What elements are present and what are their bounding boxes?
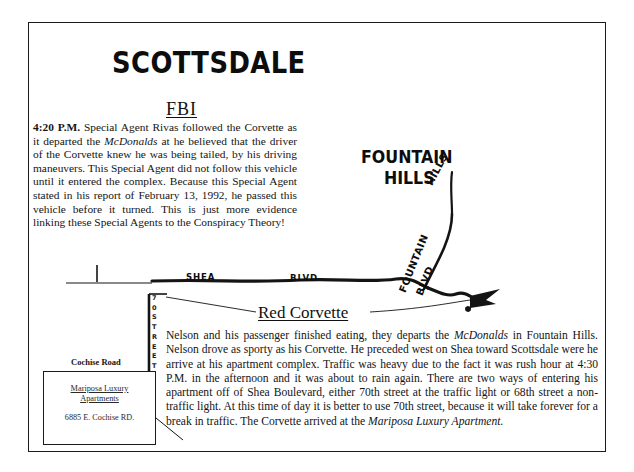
document-page: SCOTTSDALE FBI 4:20 P.M. Special Agent R… [0, 0, 634, 472]
fbi-section-heading: FBI [166, 99, 197, 120]
street-char-6: E [152, 343, 164, 353]
map-label-70-street: 7 0 S T R E E T [152, 294, 164, 372]
map-label-shea: SHEA [186, 271, 215, 282]
fbi-timestamp: 4:20 P.M. [33, 121, 80, 133]
corvette-section-paragraph: Nelson and his passenger finished eating… [166, 329, 598, 429]
street-char-7: E [152, 352, 164, 362]
mariposa-name-line2: Apartments [44, 394, 155, 404]
street-char-0: 7 [152, 294, 164, 304]
corvette-italic-mariposa: Mariposa Luxury Apartment. [368, 415, 503, 428]
corvette-body-part1: Nelson and his passenger finished eating… [166, 329, 454, 342]
fbi-body-part2: at he believed that the driver of the Co… [33, 135, 297, 229]
corvette-section-heading: Red Corvette [258, 303, 348, 323]
map-label-cochise-road: Cochise Road [71, 357, 121, 367]
page-title: SCOTTSDALE [112, 45, 306, 80]
mariposa-apartments-box: Mariposa Luxury Apartments 6885 E. Cochi… [43, 371, 156, 445]
corvette-italic-mcdonalds: McDonalds [454, 329, 508, 342]
fbi-section-paragraph: 4:20 P.M. Special Agent Rivas followed t… [33, 121, 297, 230]
street-char-1: 0 [152, 304, 164, 314]
mariposa-address: 6885 E. Cochise RD. [44, 413, 155, 422]
fbi-italic-mcdonalds: McDonalds [104, 135, 157, 147]
map-label-blvd: BLVD [290, 272, 318, 283]
corvette-body-part2: in Fountain Hills. Nelson drove as sport… [166, 329, 598, 428]
street-char-3: S [152, 313, 164, 323]
mariposa-name: Mariposa Luxury Apartments [44, 384, 155, 404]
mariposa-name-line1: Mariposa Luxury [44, 384, 155, 394]
street-char-5: R [152, 333, 164, 343]
street-char-4: T [152, 323, 164, 333]
